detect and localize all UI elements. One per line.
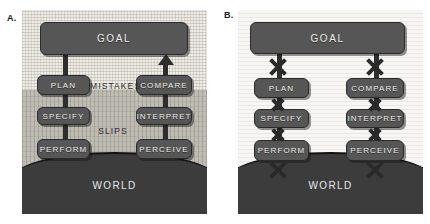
box-compare-a-label: COMPARE xyxy=(140,81,188,90)
box-perform-b-label: PERFORM xyxy=(258,146,306,155)
figure-container: A. WORLD GOAL PLAN SPECIFY PERFORM xyxy=(0,0,430,224)
box-goal-b[interactable]: GOAL xyxy=(250,22,405,54)
break-x-perform-world-icon xyxy=(267,159,288,180)
box-goal-b-label: GOAL xyxy=(310,33,344,44)
box-interpret-a[interactable]: INTERPRET xyxy=(136,107,192,125)
break-x-goal-plan-icon xyxy=(267,56,288,77)
arrow-up-to-goal-icon xyxy=(158,54,174,65)
box-perform-a[interactable]: PERFORM xyxy=(37,139,90,159)
box-specify-a[interactable]: SPECIFY xyxy=(37,107,90,125)
box-interpret-a-label: INTERPRET xyxy=(136,112,191,121)
connector-interpret-to-compare xyxy=(163,94,168,108)
box-interpret-b-label: INTERPRET xyxy=(347,114,402,123)
box-compare-a[interactable]: COMPARE xyxy=(136,75,192,95)
panel-a-label: A. xyxy=(7,13,17,23)
box-perform-b[interactable]: PERFORM xyxy=(254,140,309,161)
connector-plan-to-specify xyxy=(63,94,68,108)
world-label-b: WORLD xyxy=(238,180,423,191)
box-plan-b[interactable]: PLAN xyxy=(254,78,309,98)
box-plan-b-label: PLAN xyxy=(269,84,294,93)
box-goal-a-label: GOAL xyxy=(97,33,131,44)
world-band-b: WORLD xyxy=(238,152,423,214)
box-perceive-b-label: PERCEIVE xyxy=(350,146,399,155)
box-perceive-b[interactable]: PERCEIVE xyxy=(346,140,404,161)
box-perceive-a-label: PERCEIVE xyxy=(139,145,188,154)
box-specify-a-label: SPECIFY xyxy=(43,112,85,121)
break-x-perceive-world-icon xyxy=(364,159,385,180)
break-x-interpret-perceive-icon xyxy=(367,127,382,142)
connector-perceive-to-interpret xyxy=(163,124,168,140)
break-x-plan-specify-icon xyxy=(270,97,285,112)
box-plan-a[interactable]: PLAN xyxy=(37,75,90,95)
box-perceive-a[interactable]: PERCEIVE xyxy=(136,139,192,159)
box-perform-a-label: PERFORM xyxy=(40,145,88,154)
box-goal-a[interactable]: GOAL xyxy=(40,22,188,55)
box-plan-a-label: PLAN xyxy=(51,81,76,90)
connector-goal-to-plan xyxy=(63,54,68,76)
region-label-mistakes: MISTAKES xyxy=(90,81,136,91)
break-x-specify-perform-icon xyxy=(270,127,285,142)
connector-specify-to-perform xyxy=(63,124,68,140)
world-label-a: WORLD xyxy=(22,180,207,191)
box-compare-b[interactable]: COMPARE xyxy=(346,78,404,98)
world-band-a: WORLD xyxy=(22,152,207,214)
region-label-slips: SLIPS xyxy=(90,126,136,136)
panel-a: WORLD GOAL PLAN SPECIFY PERFORM COMPARE … xyxy=(22,10,207,214)
panel-b: WORLD GOAL PLAN SPECIFY PERFORM COMPARE … xyxy=(238,10,423,214)
box-compare-b-label: COMPARE xyxy=(351,84,399,93)
break-x-goal-compare-icon xyxy=(364,56,385,77)
break-x-compare-interpret-icon xyxy=(367,97,382,112)
box-specify-b-label: SPECIFY xyxy=(261,114,303,123)
panel-b-label: B. xyxy=(224,10,234,20)
